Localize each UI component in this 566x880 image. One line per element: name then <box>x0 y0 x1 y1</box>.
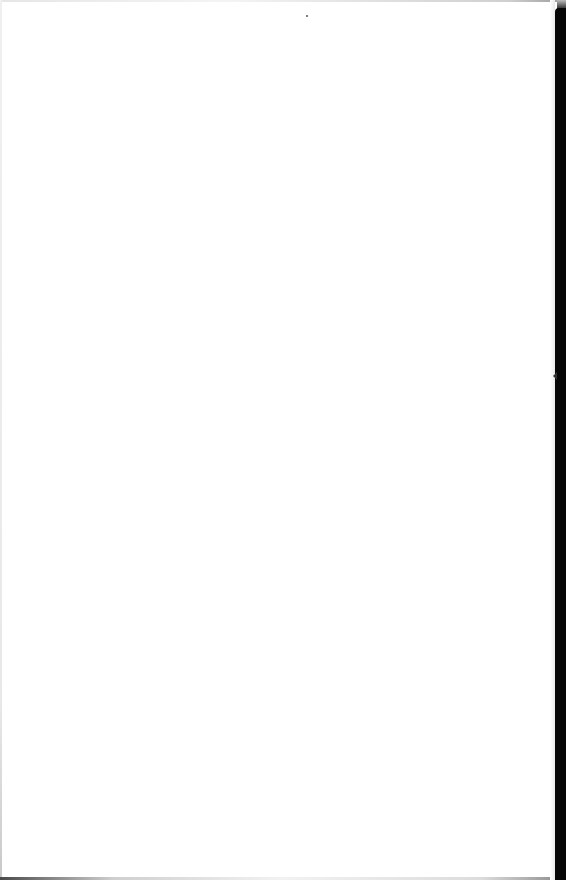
dust-speck <box>306 15 308 17</box>
book-binding-edge <box>555 8 566 880</box>
page-left-edge <box>0 0 2 880</box>
blank-scanned-page <box>0 0 566 880</box>
page-top-edge <box>0 0 566 2</box>
